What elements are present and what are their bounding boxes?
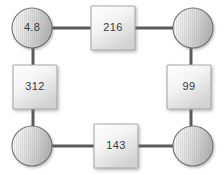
node-circle-bottom-right[interactable] bbox=[173, 126, 213, 166]
node-label: 99 bbox=[183, 80, 196, 92]
node-label: 312 bbox=[25, 80, 44, 92]
node-circle-top-left[interactable]: 4.8 bbox=[12, 8, 52, 48]
node-circle-bottom-left[interactable] bbox=[12, 126, 52, 166]
node-label: 216 bbox=[103, 21, 122, 33]
diagram-canvas: 4.8 216 312 99 bbox=[0, 0, 224, 175]
node-square-top-middle[interactable]: 216 bbox=[91, 6, 135, 50]
node-label: 143 bbox=[106, 139, 125, 151]
node-label: 4.8 bbox=[24, 21, 40, 33]
node-circle-top-right[interactable] bbox=[173, 8, 213, 48]
node-square-middle-left[interactable]: 312 bbox=[13, 65, 57, 109]
node-square-middle-right[interactable]: 99 bbox=[167, 65, 211, 109]
node-square-bottom-middle[interactable]: 143 bbox=[94, 124, 138, 168]
